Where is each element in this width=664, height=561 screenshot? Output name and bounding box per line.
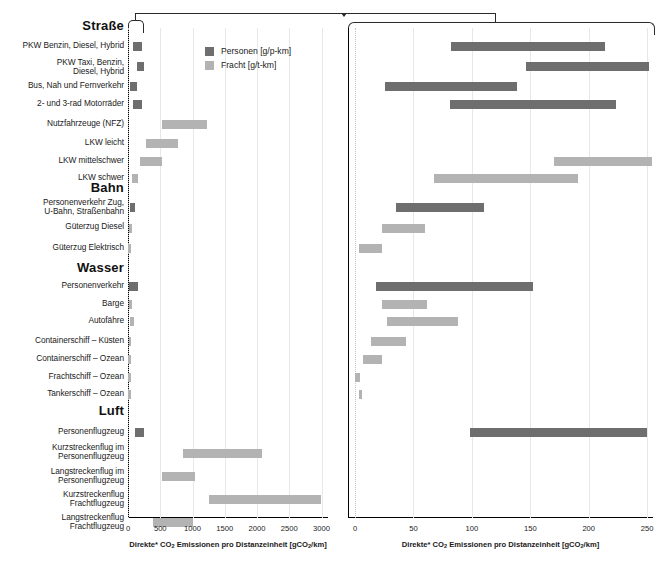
- range-bar: [146, 139, 178, 148]
- gridline: [413, 28, 414, 518]
- legend-swatch-personen: [205, 47, 214, 56]
- row-label: LKW leicht: [85, 138, 124, 147]
- panel-left: Personen [g/p-km] Fracht [g/t-km]: [128, 28, 328, 518]
- range-bar: [128, 390, 131, 399]
- range-bar: [396, 203, 484, 212]
- right-panel-axis-x: [348, 517, 653, 518]
- gridline: [225, 28, 226, 518]
- range-bar: [382, 224, 425, 233]
- axis-tick-label: 1000: [184, 524, 201, 533]
- range-bar: [130, 317, 134, 326]
- row-label: Frachtschiff – Ozean: [49, 372, 124, 381]
- range-bar: [135, 428, 144, 437]
- range-bar: [128, 373, 131, 382]
- range-bar: [130, 203, 135, 212]
- gridline: [647, 28, 648, 518]
- row-label: Kurzstreckenflug im Personenflugzeug: [52, 443, 124, 462]
- row-label: Personenverkehr Zug, U-Bahn, Straßenbahn: [43, 198, 124, 217]
- gridline: [289, 28, 290, 518]
- row-label: PKW Benzin, Diesel, Hybrid: [22, 41, 124, 50]
- row-label: Langstreckenflug Frachtflugzeug: [62, 513, 124, 532]
- row-label: PKW Taxi, Benzin, Diesel, Hybrid: [57, 58, 124, 77]
- axis-tick-label: 150: [524, 524, 537, 533]
- row-label: Containerschiff – Küsten: [35, 336, 124, 345]
- right-panel-axis-caption: Direkte* CO2 Emissionen pro Distanzeinhe…: [348, 540, 653, 549]
- gridline: [257, 28, 258, 518]
- row-label: Langstreckenflug im Personenflugzeug: [51, 467, 124, 486]
- row-label: Containerschiff – Ozean: [36, 354, 124, 363]
- gridline: [193, 28, 194, 518]
- range-bar: [385, 82, 517, 91]
- range-bar: [128, 355, 131, 364]
- gridline: [355, 28, 357, 518]
- axis-tick-label: 1500: [216, 524, 233, 533]
- range-bar: [162, 472, 196, 481]
- row-label: 2- und 3-rad Motorräder: [37, 99, 124, 108]
- range-bar: [140, 157, 162, 166]
- range-bar: [129, 300, 132, 309]
- row-label: Güterzug Diesel: [65, 222, 124, 231]
- range-bar: [209, 495, 321, 504]
- range-bar: [470, 428, 648, 437]
- range-bar: [129, 282, 138, 291]
- range-bar: [162, 120, 207, 129]
- row-label: Bus, Nah und Fernverkehr: [28, 81, 124, 90]
- axis-tick-label: 3000: [313, 524, 330, 533]
- range-bar: [355, 373, 360, 382]
- row-label: Autofähre: [88, 316, 124, 325]
- axis-tick-label: 2000: [249, 524, 266, 533]
- range-bar: [132, 174, 138, 183]
- row-label: Barge: [102, 299, 124, 308]
- range-bar: [554, 157, 652, 166]
- range-bar: [133, 42, 142, 51]
- range-bar: [434, 174, 578, 183]
- gridline: [160, 28, 161, 518]
- group-title-strasse: Straße: [82, 18, 124, 33]
- legend-label-fracht: Fracht [g/t-km]: [221, 58, 276, 72]
- range-bar: [363, 355, 382, 364]
- zoom-connector-line: [135, 13, 495, 14]
- axis-tick-label: 50: [409, 524, 417, 533]
- legend-label-personen: Personen [g/p-km]: [221, 44, 291, 58]
- legend-swatch-fracht: [205, 61, 214, 70]
- axis-tick-label: 200: [582, 524, 595, 533]
- right-panel-axis-y: [348, 28, 349, 518]
- group-title-luft: Luft: [99, 403, 124, 418]
- range-bar: [128, 244, 131, 253]
- axis-tick-label: 250: [641, 524, 654, 533]
- range-bar: [129, 337, 132, 346]
- range-bar: [133, 100, 142, 109]
- range-bar: [137, 62, 144, 71]
- range-bar: [450, 100, 616, 109]
- range-bar: [130, 82, 137, 91]
- range-bar: [359, 390, 363, 399]
- range-bar: [371, 337, 406, 346]
- chart-root: Straße Bahn Wasser Luft PKW Benzin, Dies…: [0, 0, 664, 561]
- row-label: LKW schwer: [78, 173, 124, 182]
- row-label: Kurzstreckenflug Frachtflugzeug: [63, 490, 124, 509]
- range-bar: [359, 244, 382, 253]
- row-label: Personenverkehr: [62, 281, 124, 290]
- range-bar: [387, 317, 458, 326]
- row-label: Nutzfahrzeuge (NFZ): [47, 119, 124, 128]
- row-label: Tankerschiff – Ozean: [47, 389, 124, 398]
- row-label: Güterzug Elektrisch: [53, 243, 124, 252]
- left-panel-axis-caption: Direkte* CO2 Emissionen pro Distanzeinhe…: [128, 540, 328, 549]
- group-title-wasser: Wasser: [77, 260, 124, 275]
- gridline: [322, 28, 323, 518]
- row-label-column: Straße Bahn Wasser Luft PKW Benzin, Dies…: [0, 0, 128, 561]
- range-bar: [183, 449, 262, 458]
- range-bar: [526, 62, 650, 71]
- axis-tick-label: 0: [353, 524, 357, 533]
- panel-right: [348, 28, 653, 518]
- axis-tick-label: 0: [126, 524, 130, 533]
- axis-tick-label: 100: [466, 524, 479, 533]
- row-label: Personenflugzeug: [58, 427, 124, 436]
- range-bar: [451, 42, 605, 51]
- axis-tick-label: 500: [154, 524, 167, 533]
- axis-tick-label: 2500: [281, 524, 298, 533]
- range-bar: [376, 282, 533, 291]
- zoom-connector-right-riser: [495, 13, 496, 23]
- gridline: [128, 28, 130, 518]
- range-bar: [382, 300, 428, 309]
